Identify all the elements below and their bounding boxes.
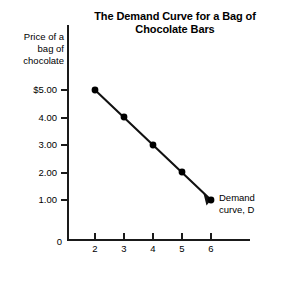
plot-area	[0, 0, 292, 292]
demand-curve-chart: The Demand Curve for a Bag of Chocolate …	[0, 0, 292, 292]
demand-curve-annotation: Demand curve, D	[219, 192, 255, 216]
demand-curve-annotation-line-1: Demand	[219, 192, 255, 204]
data-point-4	[150, 142, 157, 149]
data-point-2	[92, 87, 99, 94]
data-point-3	[121, 114, 128, 121]
data-point-5	[179, 169, 186, 176]
data-point-6	[208, 197, 215, 204]
demand-curve-annotation-line-2: curve, D	[219, 204, 255, 216]
